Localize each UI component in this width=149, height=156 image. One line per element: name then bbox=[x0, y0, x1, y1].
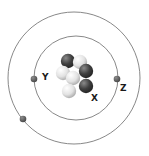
label-y: Y bbox=[41, 72, 49, 82]
electron-y bbox=[31, 76, 38, 83]
label-z: Z bbox=[120, 83, 127, 93]
electron-outer bbox=[20, 116, 27, 123]
nucleus bbox=[56, 54, 93, 98]
nucleus-particle-proton bbox=[79, 79, 93, 93]
nucleus-particle-neutron bbox=[62, 84, 76, 98]
nucleus-particle-proton bbox=[79, 64, 93, 78]
label-x: X bbox=[91, 93, 98, 103]
atom-diagram: Y Z X bbox=[0, 0, 149, 156]
nucleus-particle-neutron bbox=[66, 71, 80, 85]
electron-z bbox=[114, 76, 121, 83]
